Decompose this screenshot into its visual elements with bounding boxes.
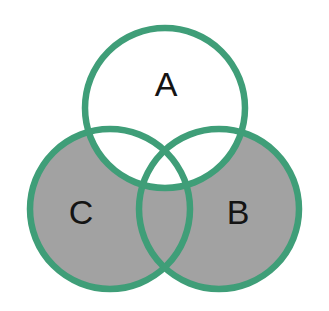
set-label-c: C: [69, 193, 94, 231]
set-label-a: A: [155, 65, 178, 103]
venn-diagram-canvas: A C B: [0, 0, 329, 311]
set-label-b: B: [227, 193, 250, 231]
venn-diagram-figure: A C B: [0, 0, 329, 311]
